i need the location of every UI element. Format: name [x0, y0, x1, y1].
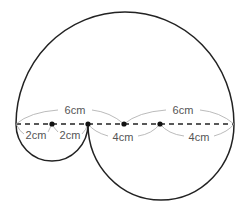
medium-semicircle	[88, 124, 234, 200]
point-center-small	[49, 121, 54, 126]
large-semicircle	[16, 12, 234, 124]
point-junction	[85, 121, 90, 126]
label-2cm-a: 2cm	[26, 129, 47, 141]
label-2cm-b: 2cm	[60, 129, 81, 141]
label-6cm-right: 6cm	[173, 104, 194, 116]
label-4cm-b: 4cm	[189, 131, 210, 143]
point-center-large	[121, 121, 126, 126]
label-6cm-left: 6cm	[65, 104, 86, 116]
label-4cm-a: 4cm	[113, 131, 134, 143]
composite-semicircle-diagram: 6cm 6cm 2cm 2cm 4cm 4cm	[0, 0, 250, 212]
point-center-medium	[157, 121, 162, 126]
